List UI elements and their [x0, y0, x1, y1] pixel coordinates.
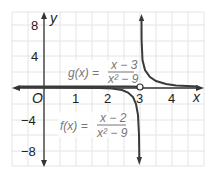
svg-text:x² − 9: x² − 9 — [96, 126, 128, 140]
y-tick-8: 8 — [31, 18, 38, 33]
g-equation: g(x) = x − 3 x² − 9 — [66, 58, 139, 86]
x-tick-3: 3 — [136, 91, 143, 106]
x-tick-4: 4 — [168, 91, 175, 106]
arrow-up-icon — [41, 12, 47, 19]
f-equation: f(x) = x − 2 x² − 9 — [58, 111, 130, 140]
svg-text:x² − 9: x² − 9 — [107, 72, 139, 86]
arrow-down-icon — [137, 157, 142, 165]
svg-text:f(x) =: f(x) = — [60, 119, 88, 133]
origin-label: O — [32, 90, 43, 106]
svg-text:g(x) =: g(x) = — [68, 66, 99, 80]
x-tick-1: 1 — [72, 91, 79, 106]
x-axis-label: x — [192, 89, 201, 105]
y-axis-label: y — [49, 10, 58, 26]
arrow-left-icon — [12, 85, 20, 91]
graph: y x O 1 2 3 4 8 4 −4 −8 g(x) = x − 3 x² … — [0, 0, 211, 173]
y-tick-neg4: −4 — [21, 113, 36, 128]
y-tick-4: 4 — [31, 49, 38, 64]
svg-text:x − 2: x − 2 — [99, 111, 127, 125]
x-tick-2: 2 — [104, 91, 111, 106]
svg-text:x − 3: x − 3 — [110, 58, 138, 72]
y-tick-neg8: −8 — [21, 144, 36, 159]
